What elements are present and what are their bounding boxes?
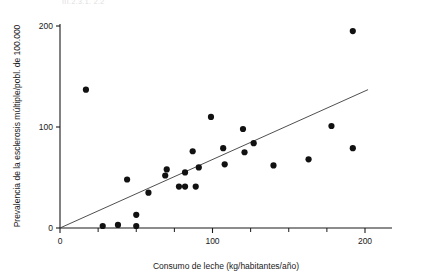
scatter-chart: III.2.3.1. 2.2 0100200 0100200 Consumo d… bbox=[0, 0, 431, 279]
data-point bbox=[124, 176, 130, 182]
y-axis-label: Prevalencia de la esclerosis múltiple/po… bbox=[12, 24, 22, 227]
data-point bbox=[164, 166, 170, 172]
x-tick-label: 100 bbox=[205, 236, 219, 246]
data-point bbox=[133, 223, 139, 229]
data-point bbox=[162, 172, 168, 178]
data-point bbox=[251, 140, 257, 146]
regression-line bbox=[60, 90, 368, 228]
cropped-header-text: III.2.3.1. 2.2 bbox=[62, 0, 105, 5]
x-axis-ticks bbox=[60, 228, 365, 233]
y-axis: 0100200 bbox=[39, 21, 60, 233]
data-point bbox=[145, 190, 151, 196]
data-point bbox=[193, 183, 199, 189]
data-point bbox=[182, 169, 188, 175]
data-point bbox=[133, 212, 139, 218]
data-point bbox=[196, 164, 202, 170]
data-point bbox=[100, 223, 106, 229]
data-point bbox=[240, 126, 246, 132]
x-tick-label: 200 bbox=[358, 236, 372, 246]
data-point bbox=[350, 28, 356, 34]
data-point bbox=[190, 148, 196, 154]
y-tick-label: 100 bbox=[39, 122, 53, 132]
data-point bbox=[182, 183, 188, 189]
x-axis-label: Consumo de leche (kg/habitantes/año) bbox=[153, 261, 299, 271]
y-axis-tick-labels: 0100200 bbox=[39, 21, 53, 233]
data-point bbox=[220, 145, 226, 151]
y-tick-label: 200 bbox=[39, 21, 53, 31]
y-tick-label: 0 bbox=[48, 223, 53, 233]
data-point bbox=[241, 149, 247, 155]
y-axis-ticks bbox=[56, 26, 60, 228]
data-point bbox=[176, 183, 182, 189]
data-point bbox=[328, 123, 334, 129]
data-point bbox=[115, 222, 121, 228]
plot-canvas: 0100200 0100200 Consumo de leche (kg/hab… bbox=[0, 0, 431, 279]
x-tick-label: 0 bbox=[58, 236, 63, 246]
data-point bbox=[208, 114, 214, 120]
data-point bbox=[305, 156, 311, 162]
data-point bbox=[222, 161, 228, 167]
x-axis-tick-labels: 0100200 bbox=[58, 236, 373, 246]
regression-line-segment bbox=[60, 90, 368, 228]
x-axis: 0100200 bbox=[58, 228, 392, 246]
data-point bbox=[83, 87, 89, 93]
data-point bbox=[270, 162, 276, 168]
data-point bbox=[350, 145, 356, 151]
